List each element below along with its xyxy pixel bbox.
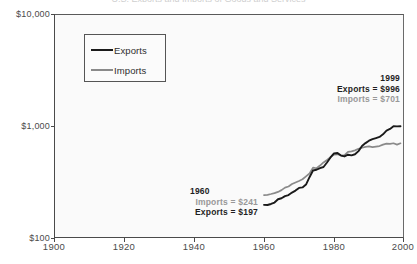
legend-label-exports: Exports bbox=[114, 45, 147, 56]
annotation-1960: 1960 Imports = $241 Exports = $197 bbox=[190, 186, 258, 218]
y-tick-mark-10000 bbox=[51, 14, 55, 15]
y-tick-label-10000: $10,000 bbox=[2, 9, 50, 19]
x-tick-label-1920: 1920 bbox=[94, 241, 154, 252]
annotation-1999: 1999 Exports = $996 Imports = $701 bbox=[337, 73, 400, 105]
annotation-1960-year: 1960 bbox=[190, 186, 258, 197]
chart-container: U.S. Exports and Imports of Goods and Se… bbox=[0, 0, 417, 264]
x-tick-label-1940: 1940 bbox=[164, 241, 224, 252]
legend-swatch-imports bbox=[91, 69, 113, 71]
annotation-1999-imports-value: $701 bbox=[380, 94, 400, 104]
annotation-1999-exports: Exports = $996 bbox=[337, 84, 400, 95]
annotation-1999-year: 1999 bbox=[337, 73, 400, 84]
x-tick-label-1900: 1900 bbox=[24, 241, 84, 252]
chart-legend: Exports Imports bbox=[84, 34, 166, 82]
annotation-1960-imports-value: $241 bbox=[238, 197, 258, 207]
annotation-1960-imports-equals: = bbox=[231, 197, 236, 207]
annotation-1999-imports-label: Imports bbox=[337, 94, 370, 104]
y-tick-label-1000: $1,000 bbox=[2, 121, 50, 131]
chart-title: U.S. Exports and Imports of Goods and Se… bbox=[0, 0, 417, 2]
legend-item-imports[interactable]: Imports bbox=[85, 63, 167, 77]
annotation-1960-exports-equals: = bbox=[231, 207, 236, 217]
x-tick-label-1980: 1980 bbox=[304, 241, 364, 252]
x-tick-label-2000: 2000 bbox=[373, 241, 417, 252]
annotation-1960-imports-label: Imports bbox=[195, 197, 228, 207]
annotation-1960-exports: Exports = $197 bbox=[190, 207, 258, 218]
annotation-1999-exports-label: Exports bbox=[337, 84, 370, 94]
annotation-1999-exports-value: $996 bbox=[380, 84, 400, 94]
legend-item-exports[interactable]: Exports bbox=[85, 43, 167, 57]
annotation-1999-exports-equals: = bbox=[373, 84, 378, 94]
legend-swatch-exports bbox=[91, 49, 113, 51]
annotation-1960-imports: Imports = $241 bbox=[190, 197, 258, 208]
y-tick-mark-1000 bbox=[51, 126, 55, 127]
annotation-1960-exports-value: $197 bbox=[238, 207, 258, 217]
legend-label-imports: Imports bbox=[114, 65, 146, 76]
x-tick-label-1960: 1960 bbox=[234, 241, 294, 252]
annotation-1999-imports: Imports = $701 bbox=[337, 94, 400, 105]
annotation-1999-imports-equals: = bbox=[373, 94, 378, 104]
annotation-1960-exports-label: Exports bbox=[195, 207, 228, 217]
y-axis-labels: $10,000 $1,000 $100 bbox=[0, 0, 50, 264]
x-axis-labels: 1900 1920 1940 1960 1980 2000 bbox=[0, 241, 417, 261]
